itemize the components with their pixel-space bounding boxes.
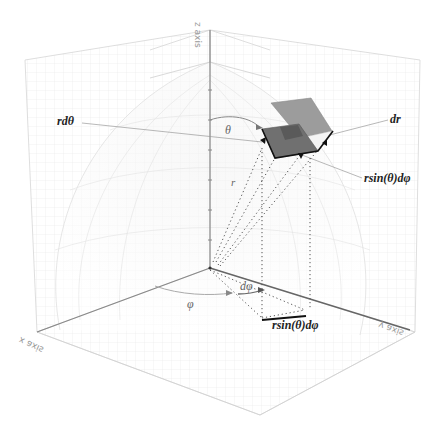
theta-label: θ — [225, 123, 231, 138]
z-axis-label: z axis — [193, 22, 203, 48]
dr-label: dr — [390, 112, 401, 127]
spherical-diagram-canvas — [0, 0, 434, 425]
r-sin-theta-dphi-lower-label: rsin(θ)dφ — [272, 318, 319, 333]
r-dtheta-label: rdθ — [57, 114, 74, 129]
dphi-label: dφ — [240, 279, 253, 294]
r-label: r — [231, 176, 235, 188]
r-sin-theta-dphi-upper-label: rsin(θ)dφ — [364, 171, 411, 186]
phi-label: φ — [187, 297, 194, 312]
